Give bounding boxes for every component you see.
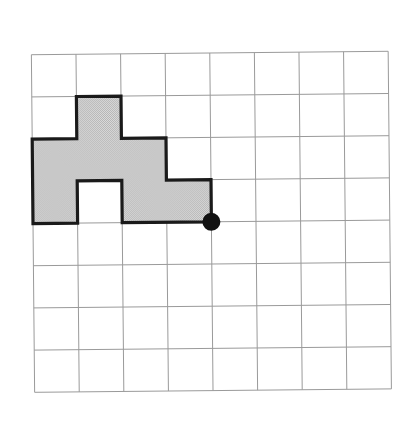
grid-figure-svg [0, 0, 414, 421]
figure-scene [31, 51, 391, 392]
corner-dot-marker [202, 213, 220, 231]
shaded-polygon [32, 95, 212, 223]
figure-root [0, 0, 414, 421]
